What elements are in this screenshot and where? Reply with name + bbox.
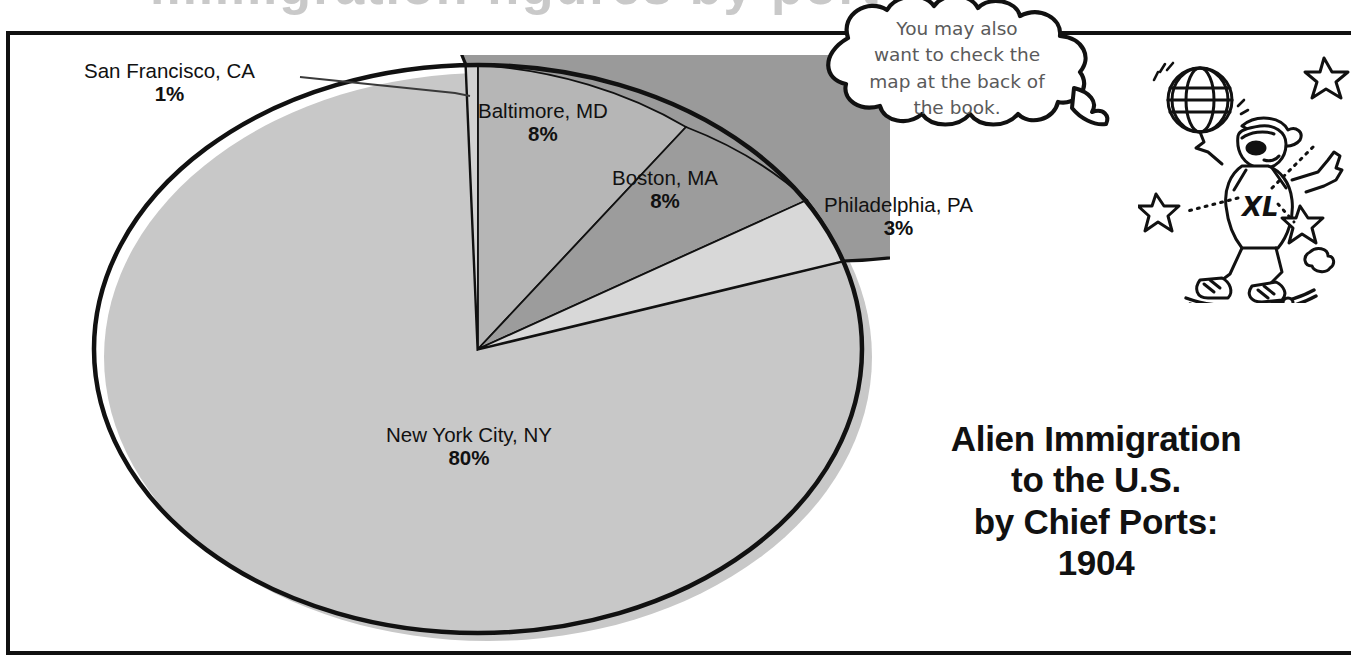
chart-title-line-4: 1904 — [880, 542, 1312, 583]
sneaker-icon — [1197, 278, 1231, 298]
chart-title-line-1: Alien Immigration — [880, 418, 1312, 459]
figure-canvas: immigration figures by port — [0, 0, 1353, 670]
left-arm — [1196, 132, 1222, 164]
speech-bubble-line-2: want to check the — [812, 42, 1102, 68]
pie-label-philadelphia: Philadelphia, PA 3% — [824, 194, 973, 240]
chart-title-line-2: to the U.S. — [880, 459, 1312, 500]
star-icon-top-right — [1305, 58, 1348, 98]
chart-title: Alien Immigration to the U.S. by Chief P… — [880, 418, 1312, 583]
pie-label-new-york-city: New York City, NY 80% — [386, 424, 552, 470]
star-icon-left — [1138, 194, 1179, 231]
pie-label-new-york-city-value: 80% — [386, 447, 552, 470]
speech-bubble-line-3: map at the back of — [812, 69, 1102, 95]
speech-bubble-text: You may also want to check the map at th… — [812, 16, 1102, 121]
globe-icon — [1168, 68, 1232, 132]
pie-label-boston-name: Boston, MA — [612, 167, 718, 190]
pie-label-san-francisco: San Francisco, CA 1% — [84, 60, 255, 106]
pie-label-philadelphia-name: Philadelphia, PA — [824, 194, 973, 217]
pie-label-san-francisco-name: San Francisco, CA — [84, 60, 255, 83]
pie-label-boston-value: 8% — [612, 190, 718, 213]
sparkle-puff-icon — [1305, 249, 1334, 272]
pie-label-boston: Boston, MA 8% — [612, 167, 718, 213]
pie-label-baltimore-name: Baltimore, MD — [478, 100, 608, 123]
pie-label-baltimore-value: 8% — [478, 123, 608, 146]
right-arm-thumbs-up — [1292, 152, 1342, 192]
mascot-character-illustration: XL — [1138, 48, 1353, 303]
chart-title-line-3: by Chief Ports: — [880, 501, 1312, 542]
pie-label-san-francisco-value: 1% — [84, 83, 255, 106]
pie-label-new-york-city-name: New York City, NY — [386, 424, 552, 447]
pie-label-baltimore: Baltimore, MD 8% — [478, 100, 608, 146]
shirt-logo-text: XL — [1240, 192, 1279, 222]
sneaker-icon-2 — [1249, 282, 1285, 302]
speech-bubble-line-4: the book. — [812, 95, 1102, 121]
sunglasses-icon — [1247, 142, 1265, 154]
speech-bubble-line-1: You may also — [812, 16, 1102, 42]
pie-label-philadelphia-value: 3% — [824, 217, 973, 240]
head-and-cap — [1238, 118, 1301, 168]
